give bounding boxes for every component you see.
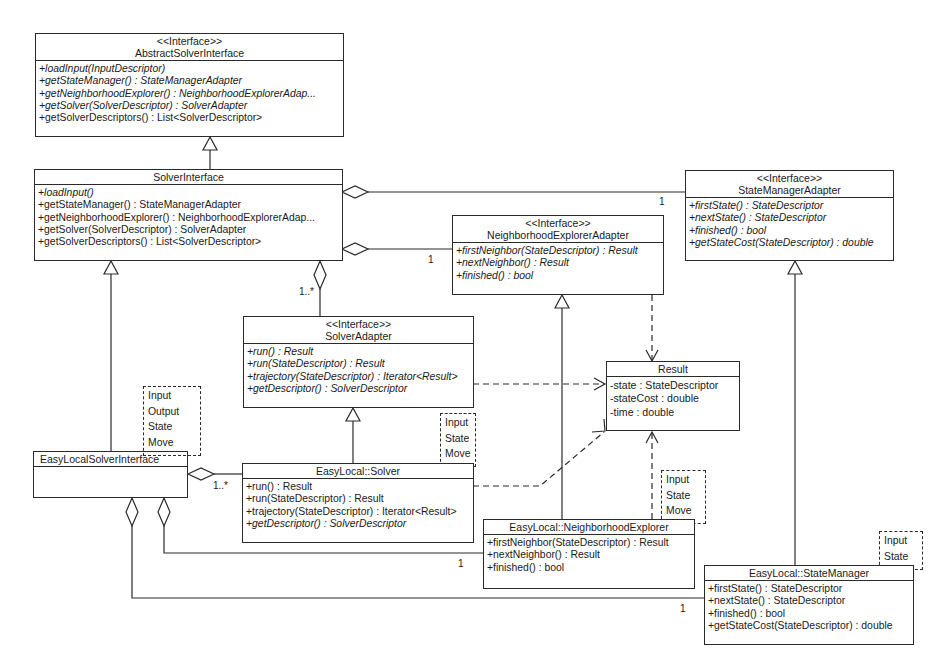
template-param: Input: [148, 388, 196, 404]
class-header: EasyLocalSolverInterface: [34, 452, 187, 467]
operations-list: +firstState() : StateDescriptor +nextSta…: [705, 581, 913, 634]
operation: +run(StateDescriptor) : Result: [246, 493, 470, 505]
aggregation-diamond-icon: [188, 468, 214, 480]
class-solver-adapter[interactable]: <<Interface>> SolverAdapter +run() : Res…: [243, 316, 474, 408]
operation: +trajectory(StateDescriptor) : Iterator<…: [247, 371, 470, 383]
template-param: State: [445, 431, 471, 447]
class-header: <<Interface>> SolverAdapter: [244, 317, 473, 344]
template-param: Input: [666, 472, 701, 488]
open-arrow-icon: [592, 419, 605, 432]
class-header: EasyLocal::Solver: [243, 464, 473, 479]
operation: +loadInput(): [38, 187, 339, 199]
aggregation-diamond-icon: [342, 186, 368, 198]
attributes-list: -state : StateDescriptor -stateCost : do…: [607, 377, 739, 421]
operation: +nextNeighbor() : Result: [456, 257, 660, 269]
stereotype-label: <<Interface>>: [455, 217, 661, 229]
multiplicity-label: 1..*: [213, 480, 228, 491]
operations-list: +run() : Result +run(StateDescriptor) : …: [244, 344, 473, 397]
operations-list: +firstState() : StateDescriptor +nextSta…: [686, 198, 893, 251]
template-param: Output: [148, 404, 196, 420]
template-param: State: [884, 549, 918, 565]
class-name: EasyLocal::Solver: [245, 465, 471, 477]
operation: +run(StateDescriptor) : Result: [247, 358, 470, 370]
template-param: State: [148, 419, 196, 435]
operation: +getNeighborhoodExplorer() : Neighborhoo…: [39, 88, 340, 100]
class-header: SolverInterface: [35, 170, 342, 185]
class-header: <<Interface>> NeighborhoodExplorerAdapte…: [453, 216, 663, 243]
operation: +finished() : bool: [708, 608, 910, 620]
operation: +getDescriptor() : SolverDescriptor: [246, 518, 470, 530]
operation: +getSolverDescriptors() : List<SolverDes…: [38, 236, 339, 248]
operation: +finished() : bool: [689, 225, 890, 237]
class-name: EasyLocal::StateManager: [707, 567, 911, 579]
class-solver-interface[interactable]: SolverInterface +loadInput() +getStateMa…: [34, 169, 343, 261]
class-header: EasyLocal::NeighborhoodExplorer: [484, 520, 694, 535]
operations-list: +firstNeighbor(StateDescriptor) : Result…: [484, 535, 694, 576]
template-params-box: Input State Move: [661, 470, 706, 524]
class-name: SolverInterface: [37, 171, 340, 183]
class-neighborhood-explorer-adapter[interactable]: <<Interface>> NeighborhoodExplorerAdapte…: [452, 215, 664, 295]
operation: +nextState() : StateDescriptor: [689, 212, 890, 224]
operation: +run() : Result: [247, 346, 470, 358]
operation: +getStateManager() : StateManagerAdapter: [38, 199, 339, 211]
template-params-box: Input Output State Move: [143, 386, 201, 456]
multiplicity-label: 1: [458, 558, 464, 569]
class-header: Result: [607, 362, 739, 377]
operation: +finished() : bool: [487, 562, 691, 574]
class-easylocal-solver[interactable]: EasyLocal::Solver +run() : Result +run(S…: [242, 463, 474, 543]
generalization-arrow-icon: [203, 137, 217, 150]
operation: +firstState() : StateDescriptor: [708, 583, 910, 595]
attribute: -state : StateDescriptor: [610, 379, 736, 392]
operation: +getStateCost(StateDescriptor) : double: [708, 620, 910, 632]
stereotype-label: <<Interface>>: [38, 35, 341, 47]
dependency-line: [473, 432, 604, 486]
template-param: State: [666, 488, 701, 504]
class-name: AbstractSolverInterface: [38, 47, 341, 59]
template-param: Input: [445, 415, 471, 431]
operation: +getStateManager() : StateManagerAdapter: [39, 75, 340, 87]
multiplicity-label: 1: [428, 254, 434, 265]
operation: +nextState() : StateDescriptor: [708, 595, 910, 607]
attribute: -stateCost : double: [610, 392, 736, 405]
operations-list: +loadInput() +getStateManager() : StateM…: [35, 185, 342, 250]
template-param: Move: [666, 503, 701, 519]
operation: +getStateCost(StateDescriptor) : double: [689, 237, 890, 249]
uml-class-diagram: <<Interface>> AbstractSolverInterface +l…: [0, 0, 950, 665]
class-easylocal-state-manager[interactable]: EasyLocal::StateManager +firstState() : …: [704, 565, 914, 645]
multiplicity-label: 1: [659, 196, 665, 207]
operation: +finished() : bool: [456, 270, 660, 282]
class-name: NeighborhoodExplorerAdapter: [455, 229, 661, 241]
template-param: Input: [884, 533, 918, 549]
operation: +loadInput(InputDescriptor): [39, 63, 340, 75]
stereotype-label: <<Interface>>: [688, 172, 891, 184]
operation: +getDescriptor() : SolverDescriptor: [247, 383, 470, 395]
operation: +getSolver(SolverDescriptor) : SolverAda…: [38, 224, 339, 236]
class-name: Result: [609, 363, 737, 375]
aggregation-diamond-icon: [342, 243, 368, 255]
operation: +getNeighborhoodExplorer() : Neighborhoo…: [38, 212, 339, 224]
class-easylocal-neighborhood-explorer[interactable]: EasyLocal::NeighborhoodExplorer +firstNe…: [483, 519, 695, 589]
class-name: EasyLocalSolverInterface: [40, 453, 185, 465]
attribute: -time : double: [610, 406, 736, 419]
aggregation-diamond-icon: [126, 498, 138, 526]
template-param: Move: [445, 446, 471, 462]
generalization-arrow-icon: [555, 295, 569, 308]
operation: +getSolverDescriptors() : List<SolverDes…: [39, 112, 340, 124]
template-params-box: Input State Move: [440, 413, 476, 467]
class-header: EasyLocal::StateManager: [705, 566, 913, 581]
operation: +nextNeighbor() : Result: [487, 549, 691, 561]
operation: +firstNeighbor(StateDescriptor) : Result: [487, 537, 691, 549]
operation: +getSolver(SolverDescriptor) : SolverAda…: [39, 100, 340, 112]
class-header: <<Interface>> AbstractSolverInterface: [36, 34, 343, 61]
class-easylocal-solver-interface[interactable]: EasyLocalSolverInterface: [33, 451, 188, 498]
operations-list: +loadInput(InputDescriptor) +getStateMan…: [36, 61, 343, 126]
operation: +firstState() : StateDescriptor: [689, 200, 890, 212]
class-state-manager-adapter[interactable]: <<Interface>> StateManagerAdapter +first…: [685, 170, 894, 261]
operations-list: +firstNeighbor(StateDescriptor) : Result…: [453, 243, 663, 284]
class-abstract-solver-interface[interactable]: <<Interface>> AbstractSolverInterface +l…: [35, 33, 344, 137]
class-name: SolverAdapter: [246, 330, 471, 342]
stereotype-label: <<Interface>>: [246, 318, 471, 330]
multiplicity-label: 1: [680, 603, 686, 614]
class-result[interactable]: Result -state : StateDescriptor -stateCo…: [606, 361, 740, 431]
operation: +trajectory(StateDescriptor) : Iterator<…: [246, 506, 470, 518]
